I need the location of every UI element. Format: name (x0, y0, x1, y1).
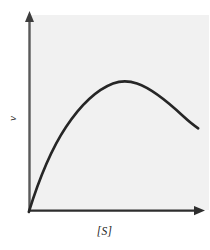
x-axis-label: [S] (0, 226, 209, 238)
y-axis-label: v (7, 111, 18, 127)
kinetics-plot (0, 0, 209, 250)
figure-container: v [S] (0, 0, 209, 250)
plot-area-background (29, 15, 210, 210)
